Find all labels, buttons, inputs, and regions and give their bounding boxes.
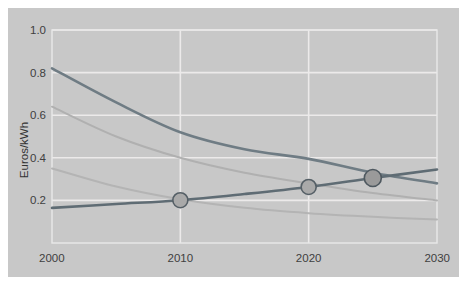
marker-grid-parity-2020[interactable] bbox=[301, 179, 316, 194]
x-tick-label: 2000 bbox=[39, 252, 65, 264]
y-tick-label: 0.6 bbox=[30, 109, 46, 121]
marker-grid-parity-2010[interactable] bbox=[173, 193, 188, 208]
y-tick-label: 0.4 bbox=[30, 152, 47, 164]
x-tick-label: 2020 bbox=[296, 252, 322, 264]
x-tick-label: 2030 bbox=[424, 252, 450, 264]
y-axis-title: Euros/kWh bbox=[18, 122, 30, 178]
y-tick-label: 0.8 bbox=[30, 67, 46, 79]
y-tick-label: 1.0 bbox=[30, 24, 46, 36]
plot-area bbox=[52, 30, 437, 243]
y-axis-tick-labels: 0.20.40.60.81.0 bbox=[30, 24, 47, 206]
line-chart: 0.20.40.60.81.0 2000201020202030 Euros/k… bbox=[0, 0, 467, 285]
x-axis-tick-labels: 2000201020202030 bbox=[39, 252, 450, 264]
y-tick-label: 0.2 bbox=[30, 194, 46, 206]
x-tick-label: 2010 bbox=[168, 252, 194, 264]
chart-figure: 0.20.40.60.81.0 2000201020202030 Euros/k… bbox=[0, 0, 467, 285]
marker-grid-parity-2025[interactable] bbox=[364, 170, 381, 187]
